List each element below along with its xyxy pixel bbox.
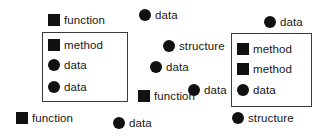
square-marker-icon [48, 14, 60, 26]
diagram-node-label: method [64, 39, 103, 51]
diagram-node: function [48, 14, 105, 26]
diagram-node: structure [232, 112, 294, 124]
square-marker-icon [237, 43, 249, 55]
diagram-node: structure [163, 40, 225, 52]
circle-marker-icon [48, 81, 60, 93]
diagram-node-label: data [166, 61, 189, 73]
circle-marker-icon [113, 117, 125, 129]
diagram-node-label: structure [179, 40, 225, 52]
diagram-canvas: functiondatadatamethodstructuremethoddat… [0, 0, 322, 139]
diagram-node: data [264, 16, 303, 28]
diagram-node-label: data [129, 117, 152, 129]
diagram-node: data [139, 9, 178, 21]
circle-marker-icon [163, 40, 175, 52]
diagram-node: data [48, 81, 87, 93]
diagram-node-label: data [64, 81, 87, 93]
diagram-node-label: function [154, 90, 195, 102]
diagram-node: data [113, 117, 152, 129]
diagram-node: function [138, 90, 195, 102]
square-marker-icon [16, 112, 28, 124]
circle-marker-icon [264, 16, 276, 28]
diagram-node-label: data [253, 84, 276, 96]
diagram-node-label: data [204, 84, 227, 96]
diagram-node-label: structure [248, 112, 294, 124]
square-marker-icon [48, 39, 60, 51]
square-marker-icon [138, 90, 150, 102]
circle-marker-icon [150, 61, 162, 73]
diagram-node-label: data [280, 16, 303, 28]
diagram-node: method [237, 63, 292, 75]
circle-marker-icon [48, 59, 60, 71]
diagram-node-label: method [253, 63, 292, 75]
diagram-node: data [150, 61, 189, 73]
diagram-node: data [48, 59, 87, 71]
diagram-node-label: function [32, 112, 73, 124]
diagram-node: function [16, 112, 73, 124]
circle-marker-icon [237, 84, 249, 96]
circle-marker-icon [139, 9, 151, 21]
square-marker-icon [237, 63, 249, 75]
diagram-node: method [48, 39, 103, 51]
diagram-node-label: data [64, 59, 87, 71]
diagram-node: method [237, 43, 292, 55]
diagram-node-label: data [155, 9, 178, 21]
circle-marker-icon [232, 112, 244, 124]
diagram-node-label: method [253, 43, 292, 55]
diagram-node: data [237, 84, 276, 96]
diagram-node-label: function [64, 14, 105, 26]
